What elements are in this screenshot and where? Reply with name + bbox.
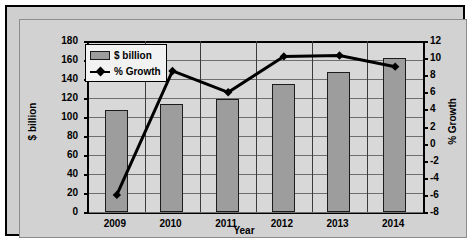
bar-swatch-icon bbox=[90, 51, 110, 60]
right-axis-tick bbox=[423, 41, 428, 43]
left-axis-tick-label: 100 bbox=[38, 112, 78, 122]
left-axis-tick-label: 60 bbox=[38, 150, 78, 160]
left-axis-tick-label: 20 bbox=[38, 188, 78, 198]
right-axis-tick bbox=[423, 109, 428, 111]
right-axis-tick-label: 10 bbox=[430, 53, 464, 63]
right-axis-tick-label: -8 bbox=[430, 207, 464, 217]
line-data-point-marker bbox=[113, 191, 121, 199]
right-axis-tick bbox=[423, 127, 428, 129]
right-axis-tick bbox=[423, 212, 428, 214]
right-axis-tick bbox=[423, 161, 428, 163]
right-axis-tick-label: -6 bbox=[430, 190, 464, 200]
right-axis-tick-label: 12 bbox=[430, 36, 464, 46]
chart-outer-frame: 180160140120100806040200 121086420-2-4-6… bbox=[5, 5, 465, 236]
right-axis-tick bbox=[423, 58, 428, 60]
legend-entry-bar: $ billion bbox=[89, 48, 165, 63]
right-axis-tick-label: -4 bbox=[430, 173, 464, 183]
line-marker-icon bbox=[90, 71, 110, 73]
right-axis-title: % Growth bbox=[447, 74, 458, 170]
left-axis-title: $ billion bbox=[27, 74, 38, 170]
legend-label-line: % Growth bbox=[114, 65, 161, 78]
left-axis-tick-label: 120 bbox=[38, 93, 78, 103]
legend-entry-line: % Growth bbox=[89, 64, 165, 79]
right-axis-tick bbox=[423, 75, 428, 77]
line-data-point-marker bbox=[391, 62, 399, 70]
left-axis-tick-label: 180 bbox=[38, 36, 78, 46]
left-axis-tick-label: 80 bbox=[38, 131, 78, 141]
gridline bbox=[89, 212, 423, 213]
right-axis-tick bbox=[423, 92, 428, 94]
left-axis-tick-label: 0 bbox=[38, 207, 78, 217]
line-data-point-marker bbox=[335, 51, 343, 59]
chart-screenshot: 180160140120100806040200 121086420-2-4-6… bbox=[0, 0, 472, 243]
legend-label-bar: $ billion bbox=[114, 49, 152, 62]
right-axis-tick bbox=[423, 195, 428, 197]
left-axis-tick-label: 40 bbox=[38, 169, 78, 179]
left-axis-tick bbox=[84, 212, 89, 214]
chart-card: 180160140120100806040200 121086420-2-4-6… bbox=[19, 19, 467, 238]
x-axis-title: Year bbox=[20, 225, 468, 236]
right-axis-tick bbox=[423, 178, 428, 180]
chart-legend: $ billion % Growth bbox=[85, 44, 167, 82]
left-axis-tick-label: 140 bbox=[38, 74, 78, 84]
right-axis-tick bbox=[423, 144, 428, 146]
left-axis-tick-label: 160 bbox=[38, 55, 78, 65]
